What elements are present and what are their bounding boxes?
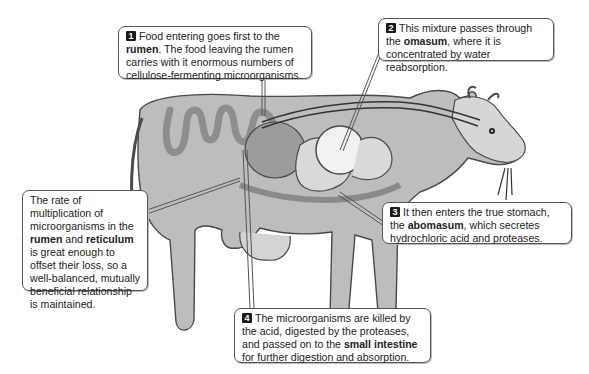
step-badge-1: 1 bbox=[126, 31, 136, 41]
step-badge-2: 2 bbox=[386, 23, 396, 33]
step-badge-3: 3 bbox=[390, 207, 400, 217]
callout-rumen: 1Food entering goes first to the rumen. … bbox=[118, 26, 312, 79]
callout-small-intestine: 4The microorganisms are killed by the ac… bbox=[234, 308, 431, 363]
step-badge-4: 4 bbox=[242, 313, 252, 323]
callout-abomasum: 3It then enters the true stomach, the ab… bbox=[382, 202, 572, 244]
callout-rumen-reticulum: The rate of multiplication of microorgan… bbox=[22, 190, 148, 291]
cow-digestion-diagram: 1Food entering goes first to the rumen. … bbox=[0, 0, 589, 374]
callout-omasum: 2This mixture passes through the omasum,… bbox=[378, 18, 554, 61]
